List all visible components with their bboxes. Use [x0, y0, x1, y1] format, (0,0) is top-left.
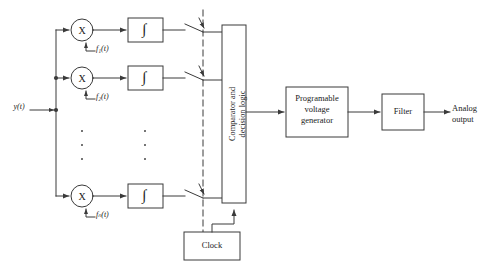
- diagram-canvas: y(t) X X X ∫ ∫ ∫ f₁(t) f₂(t) fₙ(t) Compa…: [0, 0, 487, 268]
- reference-input-stub-n: [86, 209, 95, 217]
- ellipsis-column-right: [144, 130, 146, 160]
- comparator-label-line1: Comparator and: [228, 26, 238, 202]
- clock-to-comparator-line: [212, 210, 234, 232]
- integrator-symbol-n: ∫: [142, 187, 146, 204]
- clock-box: [184, 232, 240, 260]
- branch-junction-dot-2: [54, 76, 58, 80]
- multiplier-symbol-n: X: [79, 191, 86, 202]
- multiplier-symbol-1: X: [79, 25, 86, 36]
- programable-voltage-generator-box: [286, 87, 348, 137]
- comparator-label-line2: decision logic: [238, 26, 248, 202]
- ellipsis-column-left: [81, 130, 83, 160]
- multiplier-symbol-2: X: [79, 73, 86, 84]
- reference-input-stub-1: [86, 43, 95, 51]
- integrator-symbol-2: ∫: [142, 69, 146, 86]
- filter-box: [382, 94, 424, 130]
- integrator-symbol-1: ∫: [142, 21, 146, 38]
- reference-input-stub-2: [86, 91, 95, 99]
